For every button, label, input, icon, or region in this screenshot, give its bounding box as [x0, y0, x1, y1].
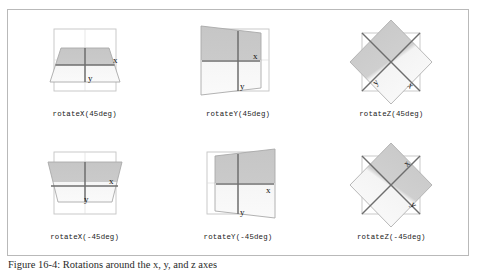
diagram-stage-rotatez-45: y x	[332, 16, 450, 108]
axis-label-y: y	[240, 81, 245, 91]
diagram-stage-rotatex-45: x y	[26, 16, 144, 108]
diagram-grid: x y rotateX(45deg)	[8, 10, 468, 255]
diagram-cell-rotatex-neg45: x y rotateX(-45deg)	[8, 133, 161, 256]
axis-label-x: x	[253, 51, 258, 61]
figure-caption: Figure 16-4: Rotations around the x, y, …	[8, 259, 217, 272]
cell-label-rotatez-45: rotateZ(45deg)	[359, 110, 423, 118]
axis-label-x: x	[113, 55, 118, 65]
diagram-stage-rotatey-neg45: x y	[179, 139, 297, 231]
diagram-cell-rotatey-45: x y rotateY(45deg)	[161, 10, 314, 133]
axis-label-x: x	[109, 176, 114, 186]
cell-label-rotatex-neg45: rotateX(-45deg)	[50, 233, 119, 241]
diagram-cell-rotatex-45: x y rotateX(45deg)	[8, 10, 161, 133]
axis-label-x: x	[266, 185, 271, 195]
diagram-cell-rotatez-45: y x rotateZ(45deg)	[315, 10, 468, 133]
diagram-stage-rotatez-neg45: x y	[332, 139, 450, 231]
axis-label-y: y	[84, 194, 89, 204]
figure-page: x y rotateX(45deg)	[0, 0, 477, 272]
cell-label-rotatex-45: rotateX(45deg)	[53, 110, 117, 118]
cell-label-rotatey-neg45: rotateY(-45deg)	[204, 233, 273, 241]
diagram-stage-rotatey-45: x y	[179, 16, 297, 108]
diagram-cell-rotatey-neg45: x y rotateY(-45deg)	[161, 133, 314, 256]
axis-label-y: y	[88, 73, 93, 83]
cell-label-rotatez-neg45: rotateZ(-45deg)	[357, 233, 426, 241]
diagram-stage-rotatex-neg45: x y	[26, 139, 144, 231]
axis-label-y: y	[240, 207, 245, 217]
cell-label-rotatey-45: rotateY(45deg)	[206, 110, 270, 118]
diagram-cell-rotatez-neg45: x y rotateZ(-45deg)	[315, 133, 468, 256]
figure-frame: x y rotateX(45deg)	[7, 9, 469, 256]
